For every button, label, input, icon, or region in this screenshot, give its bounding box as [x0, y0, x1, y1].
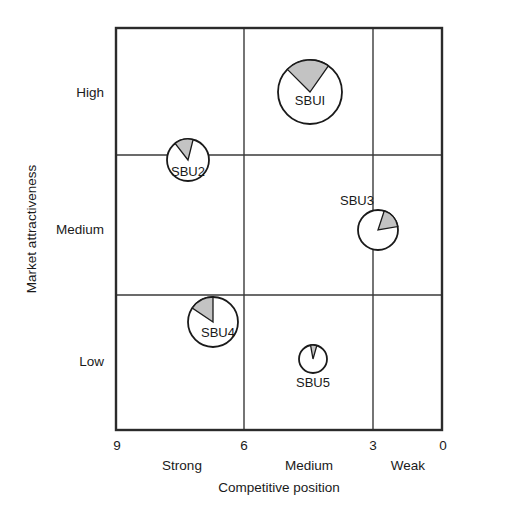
- y-tick-label-low: Low: [79, 354, 104, 369]
- x-tick-label-6: 6: [240, 438, 248, 453]
- bubble-label-sbu2: SBU2: [171, 164, 205, 179]
- x-tick-label-3: 3: [369, 438, 377, 453]
- bubble-sbu3[interactable]: [358, 210, 398, 250]
- bubble-label-sbu4: SBU4: [201, 325, 235, 340]
- bubble-sbu5[interactable]: [299, 345, 327, 373]
- x-axis-title: Competitive position: [218, 480, 340, 495]
- bubble-label-sbu5: SBU5: [296, 375, 330, 390]
- x-tick-label-0: 0: [439, 438, 447, 453]
- y-axis-title: Market attractiveness: [24, 165, 39, 294]
- y-tick-label-high: High: [76, 85, 104, 100]
- bubble-label-sbu1: SBUI: [295, 93, 325, 108]
- bubble-sbu1[interactable]: [278, 60, 342, 124]
- x-tick-label-9: 9: [113, 438, 121, 453]
- x-band-label-strong: Strong: [162, 458, 202, 473]
- x-band-label-medium: Medium: [285, 458, 333, 473]
- y-tick-label-medium: Medium: [56, 222, 104, 237]
- bubble-label-sbu3: SBU3: [340, 193, 374, 208]
- matrix-plot-svg: High Medium Low Market attractiveness 9 …: [0, 0, 528, 512]
- ge-mckinsey-matrix-chart: High Medium Low Market attractiveness 9 …: [0, 0, 528, 512]
- x-band-label-weak: Weak: [391, 458, 426, 473]
